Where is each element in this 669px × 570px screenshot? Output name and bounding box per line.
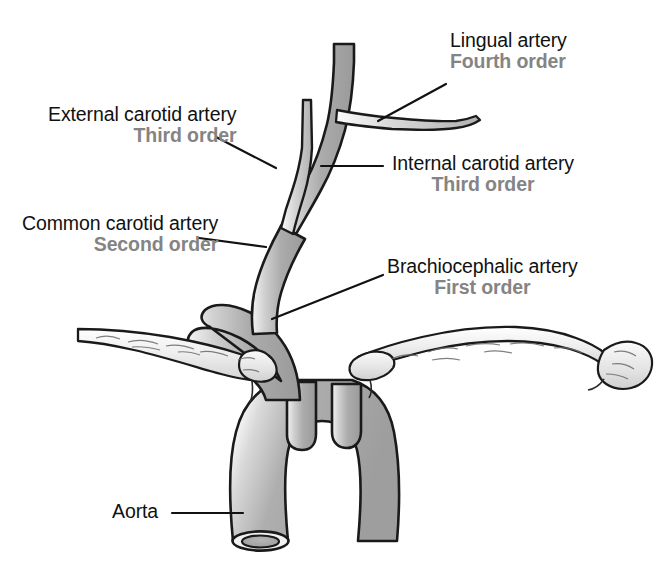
label-brachiocephalic-artery-order: First order <box>387 277 578 298</box>
aorta-lumen <box>242 536 279 548</box>
left-subclavian-stump <box>332 384 361 448</box>
label-internal-carotid-artery-order: Third order <box>392 174 574 195</box>
label-aorta: Aorta <box>112 501 158 522</box>
label-common-carotid-artery: Common carotid artery Second order <box>22 213 218 255</box>
right-clavicle-sternal-end <box>349 352 394 381</box>
label-lingual-artery-name: Lingual artery <box>450 30 567 51</box>
lingual-artery-path <box>336 110 480 130</box>
label-aorta-name: Aorta <box>112 501 158 522</box>
leader-lingual <box>378 84 446 121</box>
label-common-carotid-artery-name: Common carotid artery <box>22 213 218 234</box>
label-lingual-artery: Lingual artery Fourth order <box>450 30 567 72</box>
common-carotid-artery-path <box>252 226 305 334</box>
label-internal-carotid-artery: Internal carotid artery Third order <box>392 153 574 195</box>
label-common-carotid-artery-order: Second order <box>22 234 218 255</box>
label-internal-carotid-artery-name: Internal carotid artery <box>392 153 574 174</box>
right-clavicle <box>349 327 652 398</box>
arterial-branching-figure: Lingual artery Fourth order External car… <box>0 0 669 570</box>
label-brachiocephalic-artery: Brachiocephalic artery First order <box>387 256 578 298</box>
label-external-carotid-artery-name: External carotid artery <box>48 104 236 125</box>
label-lingual-artery-order: Fourth order <box>450 51 567 72</box>
label-external-carotid-artery-order: Third order <box>48 125 236 146</box>
label-external-carotid-artery: External carotid artery Third order <box>48 104 236 146</box>
label-brachiocephalic-artery-name: Brachiocephalic artery <box>387 256 578 277</box>
leader-brachiocephalic <box>272 275 383 319</box>
